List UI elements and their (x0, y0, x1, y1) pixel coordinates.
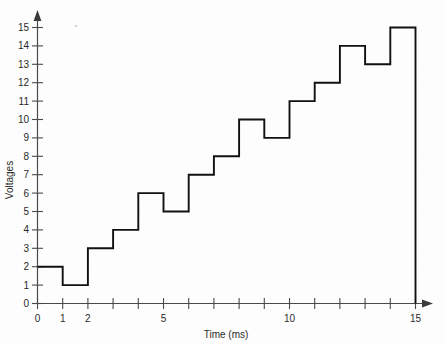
x-tick-label: 1 (60, 313, 66, 324)
y-axis-title: Voltages (4, 161, 15, 199)
x-axis-tick-labels: 0 1 2 5 10 15 (35, 313, 422, 324)
voltage-step-waveform (38, 28, 416, 304)
y-tick-label: 10 (18, 114, 30, 125)
y-tick-label: 14 (18, 40, 30, 51)
x-axis-arrow-icon (422, 300, 433, 308)
y-tick-label: 8 (23, 151, 29, 162)
x-tick-label: 0 (35, 313, 41, 324)
y-tick-label: 3 (23, 243, 29, 254)
scan-speck (75, 25, 77, 27)
x-tick-label: 5 (161, 313, 167, 324)
x-axis-title: Time (ms) (204, 329, 249, 340)
y-tick-label: 13 (18, 59, 30, 70)
y-tick-label: 1 (23, 280, 29, 291)
x-tick-label: 2 (85, 313, 91, 324)
step-chart-svg: 0 1 2 3 4 5 6 7 8 9 10 11 12 13 14 15 (0, 0, 445, 345)
y-tick-label: 9 (23, 132, 29, 143)
y-tick-label: 11 (19, 96, 30, 107)
y-axis-tick-labels: 0 1 2 3 4 5 6 7 8 9 10 11 12 13 14 15 (18, 22, 30, 309)
y-tick-label: 2 (23, 261, 29, 272)
y-tick-label: 4 (23, 224, 29, 235)
y-tick-label: 5 (23, 206, 29, 217)
chart-container: 0 1 2 3 4 5 6 7 8 9 10 11 12 13 14 15 (0, 0, 445, 345)
y-tick-label: 12 (18, 77, 30, 88)
y-tick-label: 7 (23, 169, 29, 180)
y-axis-arrow-icon (34, 10, 42, 21)
y-tick-label: 0 (23, 298, 29, 309)
y-tick-label: 15 (18, 22, 30, 33)
y-tick-label: 6 (23, 188, 29, 199)
x-tick-label: 15 (410, 313, 422, 324)
x-tick-label: 10 (284, 313, 296, 324)
